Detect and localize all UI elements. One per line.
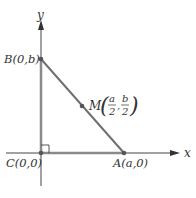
fraction-b-num: b <box>122 93 128 104</box>
point-b-label: B(0,b) <box>3 52 40 66</box>
point-c-label: C(0,0) <box>6 156 42 170</box>
y-axis-label: y <box>36 8 44 22</box>
left-paren: ( <box>100 93 109 118</box>
comma: , <box>117 100 120 111</box>
point-m-label: M ( a 2 , b 2 ) <box>88 93 139 118</box>
x-axis-arrow-icon <box>170 150 180 156</box>
fraction-b-den: 2 <box>121 106 128 117</box>
point-m <box>80 104 85 109</box>
right-paren: ) <box>129 93 139 118</box>
coordinate-diagram: y x B(0,b) C(0,0) A(a,0) M ( a 2 , b 2 ) <box>0 0 196 198</box>
x-axis-label: x <box>184 146 191 160</box>
fraction-a-num: a <box>109 93 115 104</box>
point-a <box>122 151 127 156</box>
point-a-label: A(a,0) <box>112 156 148 170</box>
fraction-a-den: 2 <box>108 106 115 117</box>
point-c <box>39 151 44 156</box>
